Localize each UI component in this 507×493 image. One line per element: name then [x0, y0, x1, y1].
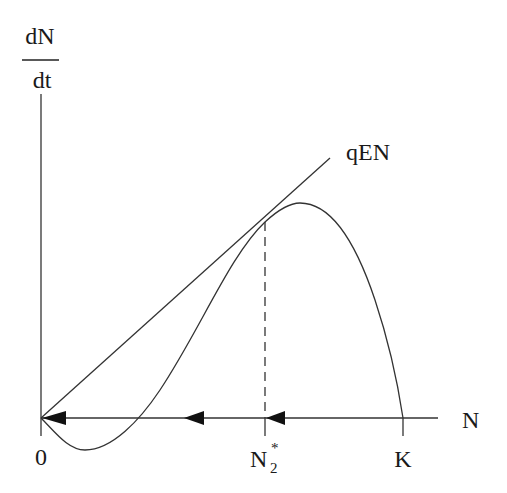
n2-star-label-superscript: *: [271, 440, 279, 456]
harvest-line-qen: [41, 158, 330, 418]
n2-star-label-main: N: [250, 446, 267, 472]
n2-star-label-subscript: 2: [270, 460, 278, 476]
arrow-left-icon: [184, 411, 204, 425]
y-axis-label-denominator: dt: [33, 67, 52, 93]
growth-curve: [41, 203, 403, 450]
origin-label: 0: [35, 444, 47, 470]
harvest-line-label: qEN: [346, 139, 390, 165]
y-axis-label-numerator: dN: [25, 23, 54, 49]
arrow-left-icon: [266, 411, 285, 425]
k-label: K: [394, 446, 412, 472]
x-axis-label: N: [462, 407, 479, 433]
depensation-harvest-diagram: dN dt qEN N 0 N 2 * K: [0, 0, 507, 493]
